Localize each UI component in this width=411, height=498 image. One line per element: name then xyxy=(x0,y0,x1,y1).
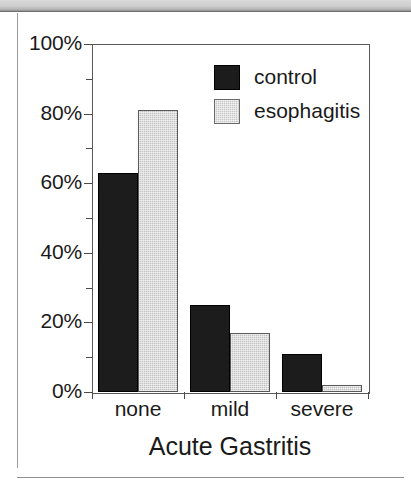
bar-control-mild xyxy=(190,305,230,392)
y-tick-major xyxy=(84,183,92,184)
scan-top-band xyxy=(0,0,411,11)
x-axis-title: Acute Gastritis xyxy=(92,432,368,461)
legend-item-control: control xyxy=(214,60,360,94)
bar-esophagitis-none xyxy=(138,110,178,392)
y-tick-major xyxy=(84,392,92,393)
y-tick-label: 0% xyxy=(12,379,82,403)
figure-root: 0%20%40%60%80%100% nonemildsevere Acute … xyxy=(0,0,411,498)
x-category-label-none: none xyxy=(92,397,184,421)
legend-swatch-control-icon xyxy=(214,65,240,90)
legend-swatch-esophagitis-icon xyxy=(214,99,240,124)
y-tick-major xyxy=(84,114,92,115)
y-tick-label: 20% xyxy=(12,309,82,333)
x-category-label-severe: severe xyxy=(276,397,368,421)
y-tick-label: 60% xyxy=(12,170,82,194)
y-tick-major xyxy=(84,44,92,45)
x-category-label-mild: mild xyxy=(184,397,276,421)
y-tick-label: 40% xyxy=(12,240,82,264)
bar-control-severe xyxy=(282,354,322,392)
y-tick-label: 80% xyxy=(12,101,82,125)
y-tick-major xyxy=(84,253,92,254)
page-bottom-rule xyxy=(17,477,404,478)
legend-label-esophagitis: esophagitis xyxy=(254,99,360,123)
legend-item-esophagitis: esophagitis xyxy=(214,94,360,128)
legend-label-control: control xyxy=(254,65,317,89)
x-tick xyxy=(368,392,369,399)
y-tick-label: 100% xyxy=(12,31,82,55)
bar-esophagitis-mild xyxy=(230,333,270,392)
bar-control-none xyxy=(98,173,138,392)
scan-top-rule xyxy=(0,11,411,12)
y-tick-major xyxy=(84,322,92,323)
chart-legend: control esophagitis xyxy=(214,60,360,128)
bar-esophagitis-severe xyxy=(322,385,362,392)
